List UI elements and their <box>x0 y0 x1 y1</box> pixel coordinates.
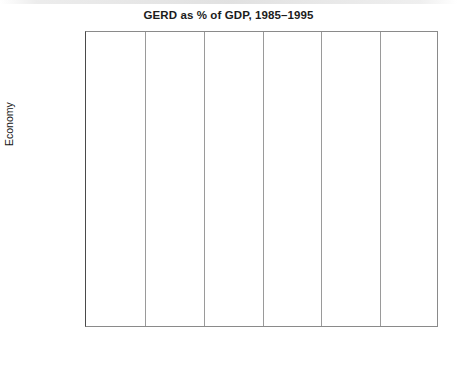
x-axis-ticks <box>85 327 438 333</box>
gridline <box>263 32 264 326</box>
x-axis-labels <box>85 334 438 350</box>
gridline <box>321 32 322 326</box>
chart-title: GERD as % of GDP, 1985–1995 <box>0 9 457 21</box>
plot-area <box>85 31 438 327</box>
bar-chart: GERD as % of GDP, 1985–1995 Economy <box>0 0 457 365</box>
gridline <box>204 32 205 326</box>
gridline <box>145 32 146 326</box>
gridline <box>380 32 381 326</box>
bar-series <box>86 32 437 326</box>
y-axis-labels <box>0 31 81 327</box>
